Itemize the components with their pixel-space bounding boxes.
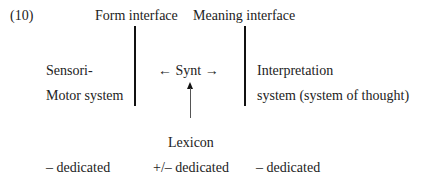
lexicon-arrow-line xyxy=(190,88,191,118)
example-number: (10) xyxy=(10,8,33,24)
interpretation-line2: system (system of thought) xyxy=(257,88,409,104)
sensori-motor-line1: Sensori- xyxy=(46,63,93,79)
dedication-right: – dedicated xyxy=(256,160,320,176)
form-interface-line xyxy=(134,26,136,106)
sensori-motor-line2: Motor system xyxy=(46,88,123,104)
meaning-interface-label: Meaning interface xyxy=(193,8,295,24)
form-interface-label: Form interface xyxy=(95,8,178,24)
synt-label: ← Synt → xyxy=(158,63,219,79)
dedication-left: – dedicated xyxy=(46,160,110,176)
interpretation-line1: Interpretation xyxy=(257,63,333,79)
meaning-interface-line xyxy=(244,26,246,106)
dedication-center: +/– dedicated xyxy=(153,160,229,176)
lexicon-label: Lexicon xyxy=(168,135,214,151)
